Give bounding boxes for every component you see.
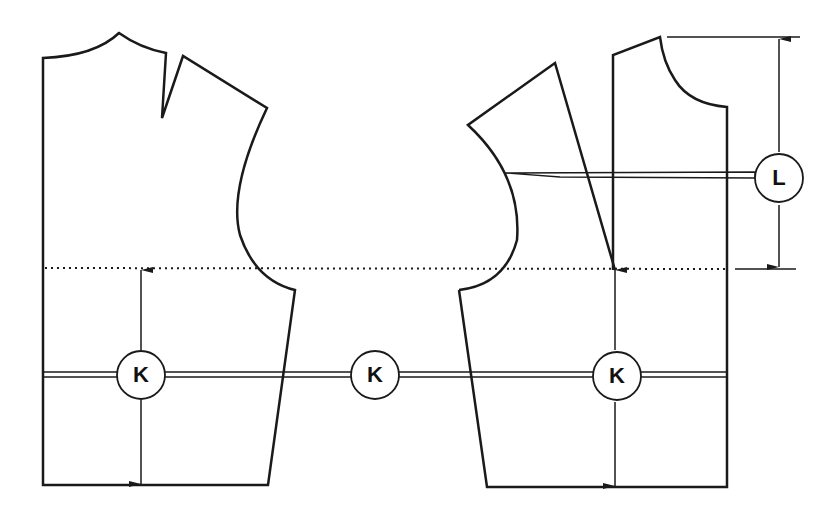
pattern-diagram bbox=[0, 0, 833, 511]
k-right-label: K bbox=[597, 356, 637, 396]
left-bodice-outline bbox=[43, 33, 295, 485]
l-label: L bbox=[759, 158, 799, 198]
k-left-label: K bbox=[121, 355, 161, 395]
front-panel-outline bbox=[459, 63, 615, 290]
l-measure-line bbox=[505, 172, 755, 178]
armhole-depth-dotted-line bbox=[45, 268, 727, 269]
k-middle-label: K bbox=[355, 355, 395, 395]
right-bodice-lower bbox=[459, 37, 727, 487]
